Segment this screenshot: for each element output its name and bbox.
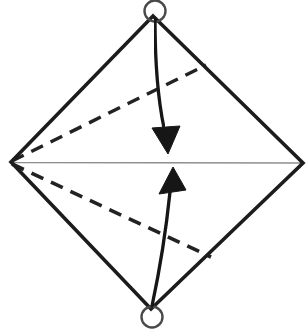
fold-up-arrow-shaft — [152, 192, 170, 306]
horizontal-crease-line — [11, 163, 303, 164]
lower-fold-line — [12, 164, 211, 257]
fold-down-arrow-shaft — [155, 19, 164, 128]
fold-up-arrow-head — [159, 167, 186, 194]
fold-down-arrow-head — [152, 126, 180, 154]
origami-fold-diagram — [0, 0, 306, 333]
upper-fold-line — [12, 65, 206, 161]
origami-diagram-page — [0, 0, 306, 333]
